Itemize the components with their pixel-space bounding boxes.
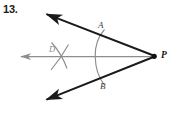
point-label-d: D [49,45,55,54]
lower-ray [47,57,154,100]
point-label-b: B [100,82,106,91]
geometry-figure: 13. A B D P [0,0,182,114]
vertex-point-P [152,54,157,59]
figure-canvas [0,0,182,114]
point-label-a: A [98,21,104,30]
point-label-p: P [161,51,167,61]
